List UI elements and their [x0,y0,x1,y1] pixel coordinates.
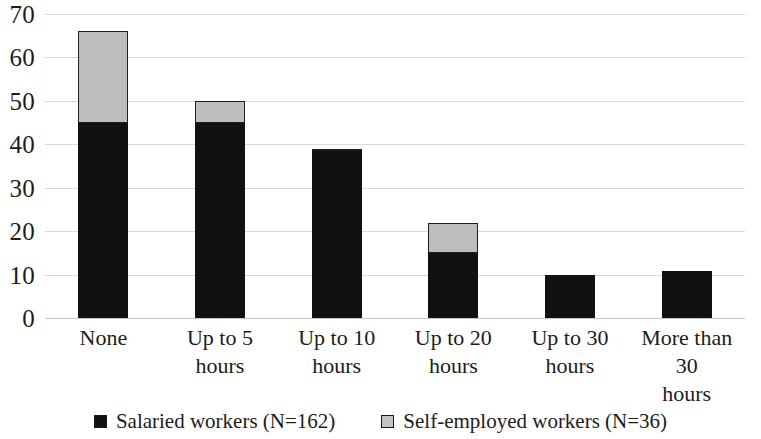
bar-segment[interactable] [312,151,362,318]
bar-segment[interactable] [78,123,128,318]
y-axis-tick-label-0: 0 [0,306,35,331]
gray-square-marker [381,415,394,428]
y-axis-tick-label-60: 60 [0,45,35,70]
x-axis-category-label: Up to 5 hours [162,324,279,380]
y-axis-tick-label-20: 20 [0,219,35,244]
bar-segment[interactable] [545,275,595,318]
y-axis-tick-label-70: 70 [0,2,35,27]
x-axis: NoneUp to 5 hoursUp to 10 hoursUp to 20 … [45,324,745,396]
y-axis-tick-label-50: 50 [0,88,35,113]
gridline-60 [45,57,745,58]
plot-area [45,14,745,318]
y-axis-tick-label-30: 30 [0,175,35,200]
legend-item-label: Salaried workers (N=162) [116,411,335,432]
black-square-marker [94,415,107,428]
x-axis-category-label: More than 30 hours [628,324,745,408]
legend-item[interactable]: Salaried workers (N=162) [94,411,335,432]
bar-segment[interactable] [195,123,245,318]
legend-item-label: Self-employed workers (N=36) [403,411,667,432]
bar-segment[interactable] [662,271,712,318]
gridline-70 [45,14,745,15]
x-axis-category-label: None [45,324,162,352]
bar-segment[interactable] [312,149,362,151]
gridline-10 [45,275,745,276]
gridline-0 [45,318,745,319]
x-axis-category-label: Up to 10 hours [278,324,395,380]
x-axis-category-label: Up to 20 hours [395,324,512,380]
legend-item[interactable]: Self-employed workers (N=36) [381,411,667,432]
bar-segment[interactable] [78,31,128,122]
y-axis: 706050403020100 [0,14,35,318]
bar-segment[interactable] [195,101,245,123]
bar-segment[interactable] [428,253,478,318]
stacked-bar-chart: 706050403020100 NoneUp to 5 hoursUp to 1… [0,0,761,439]
gridline-20 [45,231,745,232]
y-axis-tick-label-40: 40 [0,132,35,157]
y-axis-tick-label-10: 10 [0,262,35,287]
x-axis-category-label: Up to 30 hours [512,324,629,380]
chart-legend: Salaried workers (N=162)Self-employed wo… [0,404,761,439]
gridline-50 [45,101,745,102]
gridline-40 [45,144,745,145]
bar-segment[interactable] [428,223,478,253]
gridline-30 [45,188,745,189]
